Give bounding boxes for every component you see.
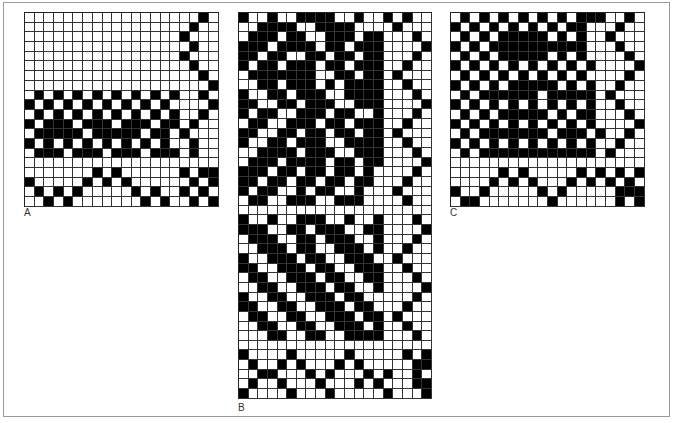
grid-cell xyxy=(287,235,297,245)
grid-cell xyxy=(355,360,365,370)
grid-cell xyxy=(239,273,249,283)
grid-cell xyxy=(249,341,259,351)
grid-cell xyxy=(490,187,500,197)
grid-cell xyxy=(297,273,307,283)
grid-cell xyxy=(268,235,278,245)
grid-cell xyxy=(413,42,423,52)
grid-cell xyxy=(470,158,480,168)
grid-cell xyxy=(316,389,326,399)
grid-cell xyxy=(490,23,500,33)
grid-cell xyxy=(306,264,316,274)
grid-cell xyxy=(587,197,597,207)
grid-cell xyxy=(529,71,539,81)
grid-cell xyxy=(548,197,558,207)
grid-cell xyxy=(538,13,548,23)
grid-cell xyxy=(316,61,326,71)
grid-cell xyxy=(577,13,587,23)
grid-cell xyxy=(499,178,509,188)
grid-cell xyxy=(112,42,122,52)
grid-cell xyxy=(73,52,83,62)
grid-cell xyxy=(239,264,249,274)
grid-cell xyxy=(393,23,403,33)
grid-cell xyxy=(480,100,490,110)
grid-cell xyxy=(132,178,142,188)
grid-cell xyxy=(509,110,519,120)
grid-cell xyxy=(596,23,606,33)
grid-cell xyxy=(355,283,365,293)
grid-cell xyxy=(480,158,490,168)
grid-cell xyxy=(538,52,548,62)
grid-cell xyxy=(413,196,423,206)
grid-cell xyxy=(403,177,413,187)
grid-cell xyxy=(519,100,529,110)
grid-cell xyxy=(567,129,577,139)
grid-cell xyxy=(306,158,316,168)
grid-cell xyxy=(490,139,500,149)
grid-cell xyxy=(268,283,278,293)
grid-cell xyxy=(326,302,336,312)
grid-cell xyxy=(25,91,35,101)
grid-cell xyxy=(258,148,268,158)
grid-cell xyxy=(616,23,626,33)
grid-cell xyxy=(297,254,307,264)
grid-cell xyxy=(180,71,190,81)
grid-cell xyxy=(548,52,558,62)
grid-cell xyxy=(470,110,480,120)
grid-cell xyxy=(258,206,268,216)
grid-cell xyxy=(73,187,83,197)
grid-cell xyxy=(209,71,219,81)
grid-cell xyxy=(490,158,500,168)
grid-cell xyxy=(268,273,278,283)
grid-cell xyxy=(278,32,288,42)
grid-cell xyxy=(190,91,200,101)
grid-cell xyxy=(103,149,113,159)
grid-cell xyxy=(461,178,471,188)
grid-cell xyxy=(422,225,432,235)
grid-cell xyxy=(519,120,529,130)
grid-cell xyxy=(161,120,171,130)
grid-cell xyxy=(287,264,297,274)
grid-cell xyxy=(509,42,519,52)
grid-cell xyxy=(635,52,645,62)
grid-cell xyxy=(170,100,180,110)
grid-cell xyxy=(316,167,326,177)
grid-cell xyxy=(209,100,219,110)
grid-cell xyxy=(297,235,307,245)
grid-cell xyxy=(35,81,45,91)
grid-cell xyxy=(170,197,180,207)
grid-cell xyxy=(326,350,336,360)
grid-cell xyxy=(54,13,64,23)
grid-cell xyxy=(470,23,480,33)
grid-cell xyxy=(355,167,365,177)
grid-cell xyxy=(180,168,190,178)
grid-cell xyxy=(393,379,403,389)
grid-cell xyxy=(258,61,268,71)
grid-cell xyxy=(54,139,64,149)
grid-cell xyxy=(306,100,316,110)
grid-cell xyxy=(239,129,249,139)
grid-cell xyxy=(268,148,278,158)
grid-cell xyxy=(355,13,365,23)
grid-cell xyxy=(122,129,132,139)
grid-cell xyxy=(577,139,587,149)
grid-cell xyxy=(558,158,568,168)
grid-cell xyxy=(596,149,606,159)
grid-cell xyxy=(384,389,394,399)
grid-cell xyxy=(209,149,219,159)
grid-cell xyxy=(268,302,278,312)
grid-cell xyxy=(316,119,326,129)
grid-cell xyxy=(422,42,432,52)
grid-cell xyxy=(268,254,278,264)
grid-cell xyxy=(567,120,577,130)
grid-cell xyxy=(54,42,64,52)
grid-cell xyxy=(326,215,336,225)
grid-cell xyxy=(25,197,35,207)
grid-cell xyxy=(258,23,268,33)
grid-cell xyxy=(316,158,326,168)
grid-cell xyxy=(499,91,509,101)
grid-cell xyxy=(239,109,249,119)
grid-cell xyxy=(567,168,577,178)
grid-cell xyxy=(393,167,403,177)
grid-cell xyxy=(141,139,151,149)
grid-cell xyxy=(132,100,142,110)
